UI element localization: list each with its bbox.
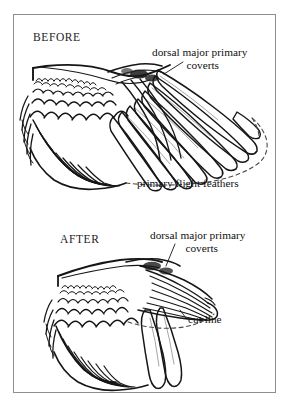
figure-root: BEFORE dorsal major primary coverts prim… — [0, 0, 290, 409]
cut-line-label: cut line — [188, 313, 222, 326]
before-coverts-line1: dorsal major primary — [152, 46, 247, 58]
before-coverts-line2: coverts — [152, 59, 247, 72]
after-coverts-line2: coverts — [150, 242, 245, 255]
before-panel-title: BEFORE — [33, 31, 81, 43]
after-panel-title: AFTER — [60, 233, 99, 245]
before-wing-illustration — [20, 62, 267, 191]
after-dorsal-major-primary-coverts-label: dorsal major primary coverts — [150, 229, 245, 254]
before-dorsal-major-primary-coverts-label: dorsal major primary coverts — [152, 46, 247, 71]
primary-flight-feathers-label: primary flight feathers — [137, 177, 239, 190]
after-coverts-line1: dorsal major primary — [150, 229, 245, 241]
